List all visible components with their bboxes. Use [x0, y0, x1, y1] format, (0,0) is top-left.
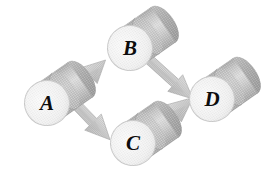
flow-diagram: A B C D	[0, 0, 277, 182]
node-b-label: B	[122, 36, 137, 60]
diagram-canvas: A B C D	[0, 0, 277, 182]
nodes-layer: A B C D	[16, 0, 268, 174]
node-d-label: D	[203, 87, 219, 111]
node-d[interactable]: D	[181, 51, 268, 131]
node-b[interactable]: B	[99, 0, 186, 79]
node-a-label: A	[38, 91, 54, 115]
node-c-label: C	[126, 131, 141, 155]
